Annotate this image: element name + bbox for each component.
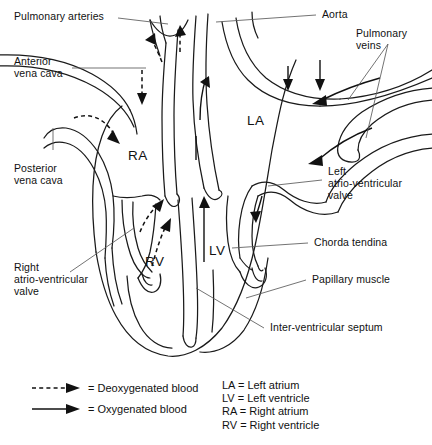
label-papillary-muscle: Papillary muscle [312,274,390,286]
legend-deoxygenated-text: = Deoxygenated blood [88,382,198,395]
flow-arrow-pulmonary-artery-left [145,33,162,62]
flow-arrow-la-down [315,60,325,91]
leader-left-av-valve [268,180,322,186]
label-pulmonary-arteries: Pulmonary arteries [14,11,104,23]
flow-arrow-vena-cava-to-ra [74,116,120,144]
label-pulmonary-veins: Pulmonary veins [356,28,407,52]
leader-chorda-tendina [232,243,308,248]
legend-oxygenated-symbol [32,404,80,414]
flow-arrow-aorta-ascend [200,76,210,120]
inter-ventricular-septum [178,198,198,347]
leader-aorta [216,15,316,22]
label-anterior-vena-cava: Anterior vena cava [14,56,63,80]
label-inter-ventricular-septum: Inter-ventricular septum [270,322,383,334]
heart-outer-wall [93,60,296,356]
label-posterior-vena-cava: Posterior vena cava [14,163,63,187]
label-right-atrio-ventricular-valve: Right atrio-ventricular valve [14,262,88,297]
flow-arrow-ra-to-rv [140,199,164,232]
legend-chamber-abbreviations: LA = Left atrium LV = Left ventricle RA … [222,379,319,432]
chamber-label-left-ventricle: LV [209,243,225,258]
chamber-label-right-ventricle: RV [145,254,164,269]
legend-deoxygenated-symbol [32,383,80,393]
flow-arrow-pulmonary-vein-lower [308,128,372,166]
heart-anatomy-svg [0,0,432,445]
label-chorda-tendina: Chorda tendina [314,237,387,249]
leader-papillary-muscle [246,280,306,298]
heart-diagram-figure: Pulmonary arteries Anterior vena cava Po… [0,0,432,445]
label-left-atrio-ventricular-valve: Left atrio-ventricular valve [328,166,402,201]
leader-inter-ventricular-septum [196,288,264,328]
chamber-label-left-atrium: LA [247,113,264,128]
flow-arrow-anterior-cava-down [137,70,147,105]
label-aorta: Aorta [322,9,348,21]
chamber-label-right-atrium: RA [128,148,148,163]
left-atrium-wall [227,182,339,272]
legend-oxygenated-text: = Oxygenated blood [88,403,187,416]
